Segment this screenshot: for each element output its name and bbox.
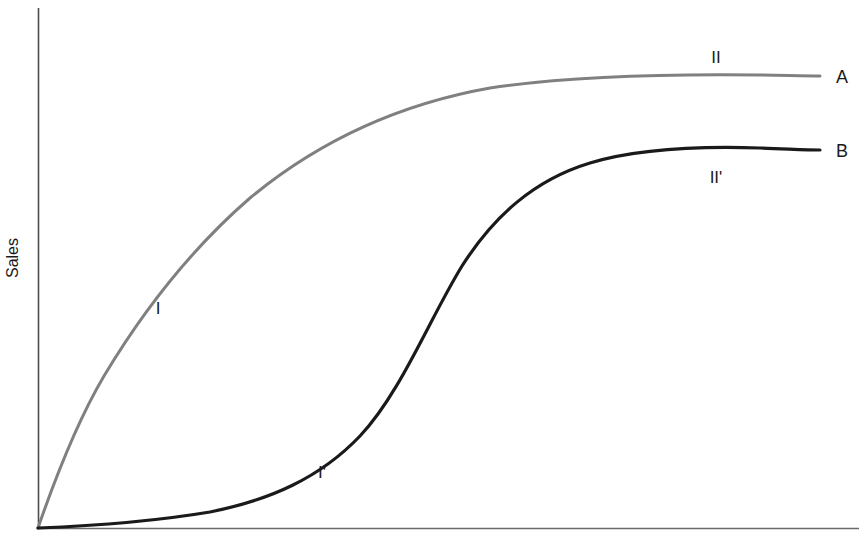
curve-b-endpoint-label: B — [836, 141, 848, 161]
chart-background — [0, 0, 859, 539]
sales-diffusion-chart: Sales I II A I' II' B — [0, 0, 859, 539]
chart-canvas: Sales I II A I' II' B — [0, 0, 859, 539]
curve-a-endpoint-label: A — [836, 67, 848, 87]
curve-b-plateau-label: II' — [710, 168, 723, 187]
curve-a-rising-label: I — [156, 299, 161, 318]
y-axis-label: Sales — [4, 238, 21, 278]
curve-a-plateau-label: II — [711, 48, 720, 67]
curve-b-rising-label: I' — [318, 463, 326, 482]
